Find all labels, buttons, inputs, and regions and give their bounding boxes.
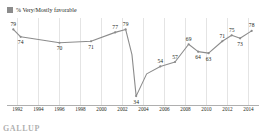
data-point <box>125 28 127 30</box>
x-axis-tick-2008: 2008 <box>180 106 190 113</box>
data-point <box>239 37 241 39</box>
chart-page: % Very/Mostly favorable 7974707177793454… <box>0 0 265 134</box>
data-point <box>20 36 22 38</box>
data-point-label: 74 <box>18 39 24 45</box>
chart-svg <box>0 16 265 106</box>
data-point <box>188 43 190 45</box>
data-point <box>208 52 210 54</box>
data-point <box>174 61 176 63</box>
data-point-label: 79 <box>123 21 129 27</box>
x-axis-tick-2010: 2010 <box>201 106 211 113</box>
data-point <box>231 34 233 36</box>
data-point-label: 71 <box>219 33 225 39</box>
legend-swatch-icon <box>7 7 13 13</box>
data-point-label: 71 <box>88 44 94 50</box>
data-point <box>159 65 161 67</box>
x-axis-tick-2012: 2012 <box>222 106 232 113</box>
x-axis-tick-2002: 2002 <box>117 106 127 113</box>
x-axis-tick-1992: 1992 <box>12 106 22 113</box>
chart-footer: GALLUP <box>3 124 63 134</box>
data-point <box>135 95 137 97</box>
data-point-label: 77 <box>112 24 118 30</box>
legend-label: % Very/Mostly favorable <box>16 7 77 13</box>
data-point-label: 73 <box>237 41 243 47</box>
x-axis-tick-labels: 1992199419961998200020022004200620082010… <box>0 106 265 118</box>
data-point-label: 64 <box>195 54 201 60</box>
data-point-label: 57 <box>172 54 178 60</box>
data-point <box>221 40 223 42</box>
x-axis-tick-2000: 2000 <box>96 106 106 113</box>
series-line-favorable <box>13 29 251 96</box>
data-point-label: 78 <box>249 22 255 28</box>
data-point-label: 34 <box>133 99 139 105</box>
data-point-label: 54 <box>158 58 164 64</box>
data-point <box>90 40 92 42</box>
data-point <box>12 28 14 30</box>
x-axis-tick-2006: 2006 <box>159 106 169 113</box>
data-point-label: 63 <box>206 56 212 62</box>
data-point-label: 70 <box>57 45 63 51</box>
data-point <box>197 51 199 53</box>
data-point-label: 69 <box>186 36 192 42</box>
data-point <box>58 42 60 44</box>
chart-legend: % Very/Mostly favorable <box>7 5 77 14</box>
data-point <box>251 30 253 32</box>
data-point-label: 75 <box>229 27 235 33</box>
gallup-wordmark: GALLUP <box>3 124 63 133</box>
x-axis-tick-1996: 1996 <box>54 106 64 113</box>
x-axis-tick-2014: 2014 <box>243 106 253 113</box>
line-chart-plot-area: 79747071777934545769646371757378 <box>0 16 265 106</box>
x-axis-tick-1994: 1994 <box>33 106 43 113</box>
data-point-label: 79 <box>11 21 17 27</box>
x-axis-tick-1998: 1998 <box>75 106 85 113</box>
x-axis-tick-2004: 2004 <box>138 106 148 113</box>
data-point <box>114 31 116 33</box>
